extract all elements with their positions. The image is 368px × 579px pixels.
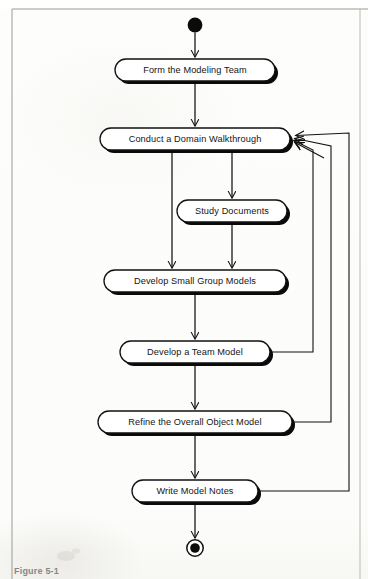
activity-label: Develop Small Group Models bbox=[134, 276, 256, 286]
scanned-page: Form the Modeling Team Conduct a Domain … bbox=[0, 0, 368, 579]
final-state-node bbox=[187, 540, 203, 556]
activity-node-team-model[interactable]: Develop a Team Model bbox=[120, 341, 273, 366]
scan-smudge bbox=[57, 549, 80, 561]
activity-label: Develop a Team Model bbox=[147, 347, 243, 357]
feedback-edges bbox=[258, 133, 349, 491]
feedback-refine-to-domain-walk bbox=[292, 139, 331, 423]
activity-node-study-docs[interactable]: Study Documents bbox=[177, 200, 290, 225]
activity-label: Study Documents bbox=[195, 206, 269, 216]
feedback-team-model-to-domain-walk bbox=[270, 141, 313, 353]
activity-label: Write Model Notes bbox=[156, 486, 233, 496]
initial-state-node bbox=[188, 18, 203, 33]
activity-node-write-notes[interactable]: Write Model Notes bbox=[132, 480, 261, 505]
activity-nodes: Form the Modeling Team Conduct a Domain … bbox=[98, 59, 295, 505]
feedback-write-notes-to-domain-walk bbox=[258, 133, 349, 491]
activity-label: Form the Modeling Team bbox=[143, 65, 247, 75]
activity-label: Conduct a Domain Walkthrough bbox=[129, 134, 262, 144]
activity-node-small-group[interactable]: Develop Small Group Models bbox=[104, 270, 289, 295]
activity-label: Refine the Overall Object Model bbox=[128, 417, 261, 427]
feedback-junction-ray bbox=[295, 143, 324, 159]
activity-diagram: Form the Modeling Team Conduct a Domain … bbox=[0, 0, 368, 579]
activity-node-domain-walk[interactable]: Conduct a Domain Walkthrough bbox=[100, 128, 293, 153]
figure-caption: Figure 5-1 bbox=[14, 566, 59, 579]
activity-node-refine-model[interactable]: Refine the Overall Object Model bbox=[98, 411, 295, 436]
activity-node-form-team[interactable]: Form the Modeling Team bbox=[115, 59, 278, 84]
